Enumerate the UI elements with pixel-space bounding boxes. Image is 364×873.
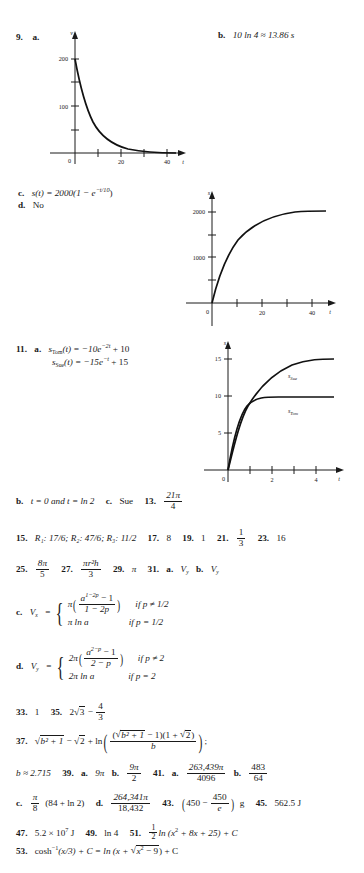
radical-x2minus9: x2 − 9 — [131, 845, 159, 856]
fraction-8pi-over-5: 8π 5 — [36, 559, 49, 579]
origin-label: 0 — [222, 475, 225, 482]
fraction-numerator: a2−p − 1 — [84, 648, 117, 658]
fraction-denominator: 4096 — [187, 773, 225, 784]
numerator-radicand-2: 2 — [185, 730, 192, 741]
piecewise-31d: { 2π(a2−p − 12 − p)if p ≠ 2 2π ln aif p … — [54, 648, 164, 686]
ytick-5: 5 — [218, 429, 221, 436]
fraction-41b: 48364 — [249, 763, 267, 783]
row2-expression: π ln a — [68, 617, 89, 627]
left-brace-glyph: { — [55, 605, 63, 622]
fraction-1-over-3: 1 3 — [237, 528, 246, 548]
condition-1: if p ≠ 2 — [138, 650, 164, 668]
graph-9c-svg: 2000 1000 0 20 40 s t — [178, 186, 358, 334]
fraction-denominator: 3 — [96, 712, 105, 723]
condition-1: if p ≠ 1/2 — [135, 596, 168, 614]
piecewise-31c: { π(a1−2p − 11 − 2p)if p ≠ 1/2 π ln aif … — [53, 594, 169, 632]
entry-49-text: ln 4 — [104, 828, 118, 838]
entry-37-plus-ln: + ln — [85, 736, 102, 746]
left-paren-glyph: ( — [73, 600, 76, 609]
entry-37: 37. b² + 1 − 2 + ln((b² + 1 − 1)(1 + 2)b… — [16, 730, 207, 751]
fraction-denominator: 8 — [31, 803, 40, 814]
answer-key-page: 9. a. 200 100 0 20 40 — [0, 0, 364, 873]
problem-number-25: 25. — [16, 564, 27, 574]
fraction-21pi-over-4: 21π 4 — [164, 491, 182, 511]
problem-number-19: 19. — [182, 533, 193, 543]
entry-9b: b. 10 ln 4 ≈ 13.86 s — [218, 30, 294, 40]
part-label-31a: a. — [166, 564, 173, 574]
fraction-9pi-over-2: 9π2 — [127, 763, 140, 783]
entry-31d-equals: = — [46, 661, 51, 671]
fraction-denominator: 18,432 — [111, 803, 149, 814]
fraction-denominator: b — [110, 741, 196, 752]
entry-9c-text-post: ) — [110, 188, 113, 198]
entry-11b-text: t = 0 and t = ln 2 — [31, 496, 95, 506]
numerator-exponent: 2−p — [91, 645, 101, 652]
graph-11a-svg: 15 10 5 0 2 4 s t sSue sTom — [196, 336, 364, 488]
problem-number-41: 41. — [153, 768, 164, 778]
condition-2: if p = 1/2 — [129, 614, 164, 632]
fraction-1-over-2: 12 — [149, 824, 157, 841]
right-paren-glyph: ) — [117, 600, 120, 609]
entry-31d-lhs-subscript: y — [36, 666, 39, 672]
fraction-31d: a2−p − 12 − p — [84, 648, 117, 668]
fraction-numerator: πr²h — [81, 559, 101, 569]
entry-31c: c. Vx = { π(a1−2p − 11 − 2p)if p ≠ 1/2 π… — [16, 594, 169, 632]
part-label-11a: a. — [34, 344, 41, 354]
ytick-200: 200 — [59, 55, 68, 62]
fraction-numerator: 1 — [149, 824, 157, 832]
fraction-4-over-3: 43 — [96, 702, 105, 722]
fraction-denominator: 3 — [81, 569, 101, 580]
twopi-coefficient: 2π — [69, 653, 78, 663]
problem-number-27: 27. — [61, 564, 72, 574]
part-label-41d: d. — [96, 798, 103, 808]
entry-47-post: J — [68, 828, 74, 838]
row2-expression: 2π ln a — [69, 671, 95, 681]
fraction-denominator: e — [211, 803, 229, 814]
curve-label-sue: sSue — [288, 373, 297, 381]
entry-17-text: 8 — [166, 533, 171, 543]
left-paren-glyph: ( — [104, 737, 108, 748]
entry-9-number: 9. a. — [16, 32, 39, 42]
problem-number-29: 29. — [113, 564, 124, 574]
problem-number-43: 43. — [162, 798, 173, 808]
entry-47-pre: 5.2 × 10 — [35, 828, 65, 838]
entry-45-text: 562.5 J — [274, 798, 301, 808]
entry-9d-text: No — [33, 200, 44, 210]
part-label-39a: a. — [81, 768, 88, 778]
fraction-numerator: a1−2p − 1 — [79, 594, 116, 604]
ytick-2000: 2000 — [193, 208, 205, 215]
entry-33-text: 1 — [35, 707, 40, 717]
fraction-denominator: 2 — [127, 773, 140, 784]
problem-number-39: 39. — [62, 768, 73, 778]
part-label-11c: c. — [106, 496, 112, 506]
problem-number-31: 31. — [148, 564, 159, 574]
part-label-31c: c. — [16, 607, 22, 617]
numerator-exponent: 1−2p — [85, 591, 99, 598]
x-axis-label-t: t — [338, 476, 340, 482]
y-axis-label-s: s — [208, 190, 211, 196]
radicand: 3 — [79, 706, 86, 717]
ytick-15: 15 — [215, 355, 221, 362]
piecewise-row-1: 2π(a2−p − 12 − p)if p ≠ 2 — [69, 648, 164, 668]
fraction-numerator: 9π — [127, 763, 140, 773]
curve-label-tom: sTom — [288, 408, 299, 416]
entry-53-tail: ) + C — [159, 846, 178, 856]
entry-31c-equals: = — [45, 607, 50, 617]
xtick-40: 40 — [309, 309, 315, 316]
numerator-radical: b² + 1 — [116, 730, 146, 741]
fraction-450-over-e: 450e — [211, 793, 229, 813]
entry-11a-line2-tail: + 15 — [109, 357, 128, 367]
part-label-41b: b. — [234, 768, 241, 778]
entry-row-37b-41: b ≈ 2.715 39. a. 9π b. 9π2 41. a. 263,43… — [16, 763, 268, 783]
graph-9a: 200 100 0 20 40 v t — [40, 26, 190, 176]
fraction-numerator: 8π — [36, 559, 49, 569]
entry-row-47-51: 47. 5.2 × 107 J 49. ln 4 51. 12ln (x2 + … — [16, 824, 238, 841]
function-sue-subscript: Sue — [56, 362, 65, 368]
part-label-11b: b. — [16, 496, 23, 506]
fraction-pi-over-8: π8 — [31, 793, 40, 813]
entry-15-text: R₁: 17/6; R₂: 47/6; R₃: 11/2 — [35, 533, 137, 543]
part-label-9a: a. — [32, 32, 39, 42]
problem-number-37: 37. — [16, 736, 27, 746]
curve-saturating-growth — [212, 211, 326, 303]
radicand: b² + 1 — [40, 735, 65, 746]
